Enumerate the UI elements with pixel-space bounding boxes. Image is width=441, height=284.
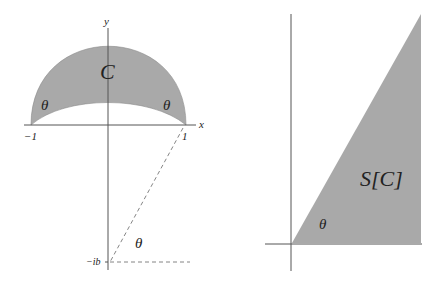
theta-left-label: θ bbox=[41, 97, 49, 113]
region-sc-label: S[C] bbox=[360, 166, 403, 191]
dashed-slant-line bbox=[110, 128, 183, 262]
theta-bottom-label: θ bbox=[135, 235, 143, 251]
region-sc bbox=[292, 14, 421, 243]
right-diagram: S[C] θ bbox=[265, 14, 422, 271]
tick-one-label: 1 bbox=[182, 130, 188, 142]
tick-minus-one-label: −1 bbox=[24, 130, 37, 142]
left-diagram: y x C θ θ −1 1 θ −ib bbox=[24, 15, 204, 270]
figure: y x C θ θ −1 1 θ −ib S[C] θ bbox=[0, 0, 441, 284]
theta-right-diagram-label: θ bbox=[319, 216, 327, 232]
x-axis-label: x bbox=[198, 118, 204, 130]
region-c-label: C bbox=[100, 59, 115, 84]
theta-right-label: θ bbox=[163, 97, 171, 113]
y-axis-label: y bbox=[103, 15, 109, 27]
point-minus-ib-label: −ib bbox=[86, 256, 101, 267]
